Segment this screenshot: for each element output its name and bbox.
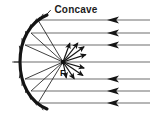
- concave-mirror-diagram: Concave F: [0, 0, 152, 116]
- reflected-ray: [31, 62, 63, 91]
- reflected-ray: [38, 20, 63, 62]
- focal-point-label: F: [60, 68, 66, 78]
- focal-point-dot: [61, 60, 65, 64]
- diagram-canvas: Concave F: [0, 0, 152, 116]
- focus-radiating-arrows-group: [63, 43, 86, 79]
- reflected-ray: [31, 33, 63, 62]
- incoming-rays-group: [12, 20, 150, 103]
- reflected-ray: [25, 45, 63, 62]
- diagram-title: Concave: [54, 4, 97, 15]
